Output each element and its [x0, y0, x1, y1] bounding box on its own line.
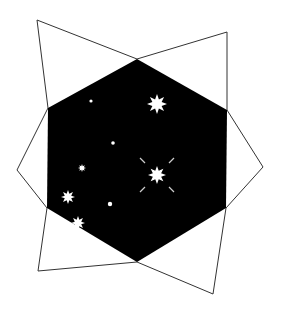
hexagon-shape [47, 59, 227, 262]
star-dot-icon [89, 99, 92, 102]
star-icon [61, 190, 75, 204]
star-icon [78, 164, 86, 172]
star-dot-icon [108, 202, 112, 206]
hexagon-starfield-figure [0, 0, 286, 319]
star-icon [147, 94, 167, 114]
star-icon [148, 166, 166, 184]
black-hexagon [47, 59, 227, 262]
star-icon [71, 216, 85, 230]
star-dot-icon [111, 141, 115, 145]
